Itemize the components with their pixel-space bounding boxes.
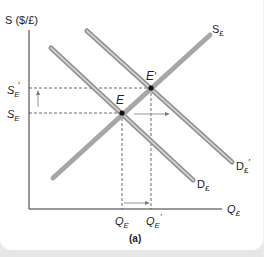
equilibrium-point-e [119,110,124,115]
label-demand-shifted: D£′ [236,157,250,175]
label-supply: S£ [212,23,224,38]
label-qe-prime: QE′ [146,212,162,230]
label-e: E [116,93,125,107]
arrow-right-demand-icon [134,112,170,116]
supply-demand-diagram: S ($/£) SE′ SE E E′ S£ D£ D£′ QE QE′ Q£ … [0,0,263,257]
label-demand: D£ [197,178,210,193]
arrow-right-quantity-icon [124,201,150,205]
equilibrium-point-e-prime [148,85,153,90]
label-e-prime: E′ [146,69,157,83]
arrow-up-icon [36,90,40,107]
label-se: SE [7,108,20,123]
y-axis-label: S ($/£) [5,14,38,26]
supply-curve [53,35,210,178]
figure-caption: (a) [129,233,141,244]
label-qe: QE [115,215,130,230]
x-axis-label: Q£ [227,203,241,218]
label-se-prime: SE′ [7,80,20,99]
demand-curve-shifted [87,31,232,162]
